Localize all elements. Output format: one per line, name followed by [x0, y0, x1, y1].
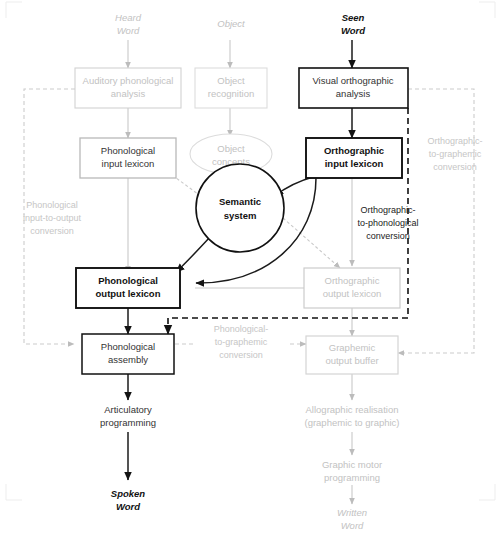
box-label-line2: input lexicon — [325, 158, 384, 169]
label-spoken-word: Spoken Word — [111, 488, 146, 512]
word-processing-model-diagram: Auditory phonological analysis Object re… — [0, 0, 501, 536]
box-auditory-phonological-analysis[interactable]: Auditory phonological analysis — [75, 68, 181, 108]
route-label-line2: to-graphemic — [429, 149, 482, 159]
box-label-line1: Visual orthographic — [312, 75, 393, 86]
label-heard-word: Heard Word — [115, 12, 142, 36]
ellipse-label-line2: system — [224, 210, 257, 221]
ellipse-semantic-system[interactable]: Semantic system — [196, 164, 284, 252]
box-object-recognition[interactable]: Object recognition — [195, 68, 267, 108]
label-seen-word: Seen Word — [341, 12, 365, 36]
route-label-line1: Phonological- — [214, 324, 269, 334]
route-label-line1: Phonological — [26, 200, 78, 210]
route-label-line1: Orthographic- — [360, 205, 415, 215]
box-label-line1: Phonological — [101, 145, 155, 156]
box-orthographic-input-lexicon[interactable]: Orthographic input lexicon — [306, 138, 402, 178]
box-graphemic-output-buffer[interactable]: Graphemic output buffer — [306, 336, 398, 374]
figure-canvas: Auditory phonological analysis Object re… — [0, 0, 501, 536]
box-label-line2: assembly — [108, 354, 148, 365]
box-label-line1: Graphemic — [329, 342, 376, 353]
output-label-line2: Word — [116, 501, 140, 512]
box-label-line2: output lexicon — [96, 288, 161, 299]
ellipse-label-line1: Object — [217, 143, 245, 154]
box-label-line2: output buffer — [325, 355, 378, 366]
route-label-line1: Orthographic- — [427, 136, 482, 146]
stage-label-line1: Allographic realisation — [306, 404, 399, 415]
input-label-line1: Seen — [342, 12, 365, 23]
route-label-orthographic-to-phonological-conversion: Orthographic- to-phonological conversion — [357, 205, 418, 241]
route-label-line3: conversion — [366, 231, 410, 241]
route-label-line3: conversion — [219, 350, 263, 360]
stage-label-line2: programming — [100, 417, 156, 428]
box-phonological-assembly[interactable]: Phonological assembly — [82, 334, 174, 374]
box-label-line1: Phonological — [98, 275, 158, 286]
box-orthographic-output-lexicon[interactable]: Orthographic output lexicon — [304, 268, 400, 308]
stage-label-line2: (graphemic to graphic) — [304, 417, 399, 428]
output-label-line1: Spoken — [111, 488, 146, 499]
ellipse-label-line1: Semantic — [219, 196, 261, 207]
box-label-line1: Orthographic — [325, 275, 380, 286]
route-label-phonological-input-to-output-conversion: Phonological input-to-output conversion — [23, 200, 82, 236]
box-label-line2: input lexicon — [102, 158, 155, 169]
box-label-line2: output lexicon — [323, 288, 382, 299]
box-label-line2: analysis — [336, 88, 371, 99]
input-label-line1: Heard — [115, 12, 142, 23]
box-label-line2: recognition — [208, 88, 254, 99]
stage-label-line1: Graphic motor — [322, 459, 382, 470]
box-label-line1: Phonological — [101, 341, 155, 352]
route-label-line3: conversion — [433, 162, 477, 172]
input-label-line2: Word — [117, 25, 140, 36]
stage-graphic-motor-programming: Graphic motor programming — [322, 459, 382, 483]
stage-allographic-realisation: Allographic realisation (graphemic to gr… — [304, 404, 399, 428]
stage-label-line1: Articulatory — [104, 404, 152, 415]
box-label-line1: Object — [217, 75, 245, 86]
box-visual-orthographic-analysis[interactable]: Visual orthographic analysis — [299, 68, 408, 108]
route-label-line2: input-to-output — [23, 213, 82, 223]
route-label-line2: to-graphemic — [215, 337, 268, 347]
input-label-line2: Word — [341, 25, 365, 36]
box-label-line1: Auditory phonological — [83, 75, 174, 86]
route-label-line3: conversion — [30, 226, 74, 236]
output-label-line2: Word — [341, 520, 364, 531]
input-label-line1: Object — [217, 18, 245, 29]
stage-label-line2: programming — [324, 472, 380, 483]
route-label-phonological-to-graphemic-conversion: Phonological- to-graphemic conversion — [214, 324, 269, 360]
box-label-line2: analysis — [111, 88, 146, 99]
stage-articulatory-programming: Articulatory programming — [100, 404, 156, 428]
box-label-line1: Orthographic — [324, 145, 384, 156]
box-phonological-input-lexicon[interactable]: Phonological input lexicon — [80, 138, 176, 178]
route-label-line2: to-phonological — [357, 218, 418, 228]
label-written-word: Written Word — [337, 507, 367, 531]
output-label-line1: Written — [337, 507, 367, 518]
box-phonological-output-lexicon[interactable]: Phonological output lexicon — [76, 268, 180, 308]
label-object: Object — [217, 18, 245, 29]
route-label-orthographic-to-graphemic-conversion: Orthographic- to-graphemic conversion — [427, 136, 482, 172]
